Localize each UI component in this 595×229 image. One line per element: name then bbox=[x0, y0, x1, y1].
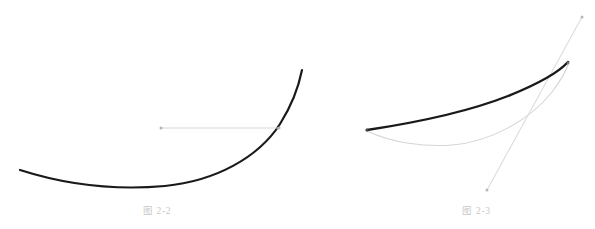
figure-page: 图 2-2 图 2-3 bbox=[0, 0, 595, 229]
curve-left-endpoint bbox=[365, 128, 368, 131]
figure-2-3: 图 2-3 bbox=[330, 0, 595, 229]
chord-left-endpoint bbox=[160, 127, 163, 130]
tangent-line bbox=[487, 17, 582, 190]
concave-curve bbox=[367, 62, 568, 130]
figure-2-2-caption: 图 2-2 bbox=[0, 203, 317, 217]
figure-2-2-drawing bbox=[0, 0, 320, 229]
figure-2-3-drawing bbox=[330, 0, 595, 229]
curve-intersection-point bbox=[567, 62, 570, 65]
tangent-lower-endpoint bbox=[486, 189, 489, 192]
lower-arc-curve bbox=[367, 62, 569, 145]
figure-2-2: 图 2-2 bbox=[0, 0, 320, 229]
figure-2-3-caption: 图 2-3 bbox=[344, 203, 595, 217]
chord-right-endpoint bbox=[278, 127, 281, 130]
tangent-upper-endpoint bbox=[581, 16, 584, 19]
